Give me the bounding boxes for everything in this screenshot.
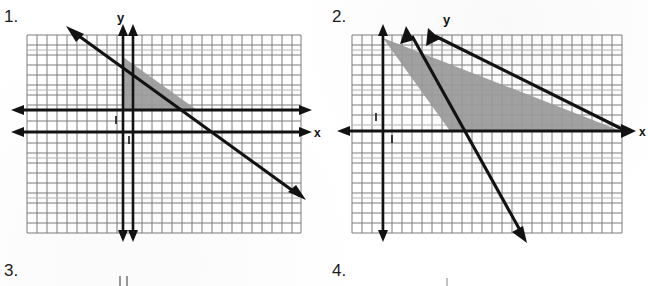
worksheet-page: 1. <box>0 0 648 286</box>
x-axis-label-2: x <box>639 125 646 139</box>
y-axis-label-2: y <box>443 12 451 27</box>
graph-problem-1: y x <box>0 0 324 250</box>
boundary-line-1 <box>66 26 306 200</box>
graph-2-canvas: y x <box>324 0 648 250</box>
x-axis-label-1: x <box>314 126 321 140</box>
grid-lines-2 <box>352 35 622 233</box>
grid-lines-1 <box>27 35 301 233</box>
y-axis-label-1: y <box>117 10 125 25</box>
cutoff-graphs-row <box>0 276 648 286</box>
graph-problem-2: y x <box>324 0 648 250</box>
y-axis-2 <box>378 24 388 242</box>
graph-1-canvas: y x <box>0 0 324 250</box>
